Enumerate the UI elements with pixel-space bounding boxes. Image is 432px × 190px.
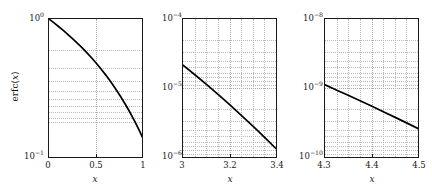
x-tick-mark (96, 154, 97, 158)
x-tick-label-2-a: 3 (167, 161, 197, 170)
y-tick-exponent: −5 (173, 80, 182, 87)
y-tick-base: 10 (299, 151, 310, 161)
x-tick-label-3-b: 4.4 (357, 161, 387, 170)
x-axis-title-2: x (200, 175, 260, 184)
y-tick-exponent: −1 (35, 149, 44, 156)
y-tick-exponent: −8 (314, 11, 323, 18)
figure-root: erfc(x) 100 10−1 0 0.5 1 (0, 0, 432, 190)
y-tick-label-2-top: 10−4 (150, 14, 182, 23)
plot-area-3 (324, 18, 419, 158)
x-axis-title-3: x (342, 175, 402, 184)
x-tick-label-2-c: 3.4 (262, 161, 292, 170)
y-tick-base: 10 (29, 13, 40, 23)
y-tick-base: 10 (24, 151, 35, 161)
x-axis-title-1: x (65, 175, 125, 184)
y-tick-label-1-bottom: 10−1 (12, 152, 44, 161)
y-tick-exponent: −6 (173, 149, 182, 156)
erfc-curve-2 (183, 19, 277, 158)
x-tick-label-3-c: 4.5 (404, 161, 432, 170)
y-tick-exponent: 0 (40, 11, 44, 18)
x-tick-mark (372, 154, 373, 158)
y-tick-label-2-mid: 10−5 (150, 83, 182, 92)
y-tick-base: 10 (162, 151, 173, 161)
x-tick-mark (142, 154, 143, 158)
y-tick-base: 10 (162, 13, 173, 23)
x-tick-label-2-b: 3.2 (215, 161, 245, 170)
y-axis-title-var: x (10, 75, 20, 80)
y-tick-base: 10 (303, 82, 314, 92)
plot-area-1 (48, 18, 143, 158)
chart-panel-2: 10−4 10−5 10−6 (150, 0, 291, 190)
chart-panel-3: 10−8 10−9 10−10 (291, 0, 432, 190)
x-tick-label-3-a: 4.3 (309, 161, 339, 170)
y-tick-exponent: −9 (314, 80, 323, 87)
x-tick-mark (182, 154, 183, 158)
y-tick-label-2-bottom: 10−6 (150, 152, 182, 161)
x-tick-mark (230, 154, 231, 158)
x-tick-mark (418, 154, 419, 158)
y-tick-base: 10 (162, 82, 173, 92)
y-tick-exponent: −4 (173, 11, 182, 18)
x-tick-label-1-a: 0 (33, 161, 63, 170)
x-tick-mark (324, 154, 325, 158)
chart-panel-1: erfc(x) 100 10−1 0 0.5 1 (0, 0, 150, 190)
erfc-curve-1 (49, 19, 143, 158)
y-axis-title-prefix: erfc( (10, 80, 20, 102)
y-tick-label-3-mid: 10−9 (287, 83, 323, 92)
y-tick-exponent: −10 (310, 149, 323, 156)
x-tick-mark (48, 154, 49, 158)
plot-area-2 (182, 18, 277, 158)
erfc-curve-3 (325, 19, 419, 158)
y-tick-base: 10 (303, 13, 314, 23)
y-axis-title-erfc: erfc(x) (11, 57, 20, 117)
y-axis-title-suffix: ) (10, 71, 20, 75)
y-tick-label-3-top: 10−8 (287, 14, 323, 23)
y-tick-label-1-top: 100 (12, 14, 44, 23)
x-tick-mark (276, 154, 277, 158)
x-tick-label-1-b: 0.5 (81, 161, 111, 170)
